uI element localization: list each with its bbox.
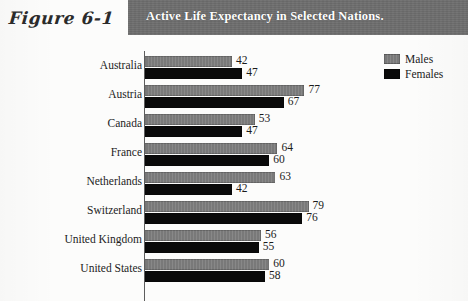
bar-rect-males: [145, 85, 304, 96]
bar-rect-females: [145, 97, 284, 108]
bar-group: United States6058: [0, 259, 468, 284]
bar-value-label: 42: [236, 182, 248, 194]
category-label: Canada: [2, 117, 142, 129]
bar-group: France6460: [0, 143, 468, 168]
bar-rect-females: [145, 242, 259, 253]
bar-rect-females: [145, 213, 302, 224]
category-label: United Kingdom: [2, 233, 142, 245]
legend-label: Females: [405, 68, 443, 80]
category-label: United States: [2, 262, 142, 274]
figure-header: Figure 6-1 Active Life Expectancy in Sel…: [0, 0, 468, 36]
bar-group: Netherlands6342: [0, 172, 468, 197]
bar-value-label: 76: [306, 211, 318, 223]
bar-value-label: 77: [308, 83, 320, 95]
bar-group: United Kingdom5655: [0, 230, 468, 255]
bar-rect-males: [145, 259, 269, 270]
bar-value-label: 58: [269, 269, 281, 281]
bar-value-label: 42: [236, 54, 248, 66]
bar-value-label: 53: [259, 112, 271, 124]
bar-rect-males: [145, 56, 232, 67]
legend-label: Males: [405, 53, 433, 65]
bar-value-label: 79: [313, 199, 325, 211]
figure-number: Figure 6-1: [8, 8, 115, 28]
bar-rect-females: [145, 155, 269, 166]
bar-value-label: 56: [265, 228, 277, 240]
females-swatch: [384, 69, 400, 79]
bar-group: Switzerland7976: [0, 201, 468, 226]
bar-value-label: 60: [273, 257, 285, 269]
bar-value-label: 64: [281, 141, 293, 153]
figure-title: Active Life Expectancy in Selected Natio…: [146, 9, 384, 24]
bar-group: Canada5347: [0, 114, 468, 139]
bar-value-label: 63: [279, 170, 291, 182]
bar-rect-females: [145, 184, 232, 195]
bar-rect-females: [145, 271, 265, 282]
category-label: Switzerland: [2, 204, 142, 216]
bar-rect-females: [145, 68, 242, 79]
bar-value-label: 67: [288, 95, 300, 107]
bar-rect-females: [145, 126, 242, 137]
title-band: Active Life Expectancy in Selected Natio…: [128, 0, 468, 35]
bar-value-label: 47: [246, 124, 258, 136]
bar-value-label: 55: [263, 240, 275, 252]
bar-group: Austria7767: [0, 85, 468, 110]
category-label: Netherlands: [2, 175, 142, 187]
bar-value-label: 47: [246, 66, 258, 78]
category-label: Austria: [2, 88, 142, 100]
category-label: France: [2, 146, 142, 158]
bar-rect-males: [145, 230, 261, 241]
males-swatch: [384, 54, 400, 64]
bar-value-label: 60: [273, 153, 285, 165]
bar-rect-males: [145, 143, 277, 154]
category-label: Australia: [2, 59, 142, 71]
bar-rect-males: [145, 114, 255, 125]
bar-rect-males: [145, 172, 275, 183]
figure-page: Figure 6-1 Active Life Expectancy in Sel…: [0, 0, 468, 301]
bar-rect-males: [145, 201, 309, 212]
